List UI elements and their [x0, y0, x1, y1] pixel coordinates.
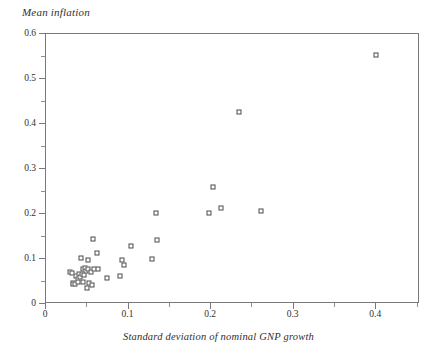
x-tick-label: 0.2 [190, 309, 230, 319]
data-point [206, 210, 211, 215]
x-tick-label: 0.4 [355, 309, 395, 319]
data-point [96, 267, 101, 272]
data-point [121, 263, 126, 268]
scatter-plot-area [45, 33, 419, 303]
data-point [374, 52, 379, 57]
data-point [81, 279, 86, 284]
data-point [219, 205, 224, 210]
data-point [90, 283, 95, 288]
data-point [78, 255, 83, 260]
x-tick-label: 0.1 [108, 309, 148, 319]
data-point [259, 209, 264, 214]
data-point [237, 110, 242, 115]
data-point [153, 211, 158, 216]
chart-page: Mean inflation 00.10.20.30.40.50.6 00.10… [0, 0, 437, 353]
data-point [129, 244, 134, 249]
x-axis-title: Standard deviation of nominal GNP growth [0, 331, 437, 342]
x-tick-label: 0.3 [273, 309, 313, 319]
x-tick-label: 0 [25, 309, 65, 319]
data-point [150, 257, 155, 262]
data-point [154, 238, 159, 243]
data-point [91, 237, 96, 242]
data-point [211, 185, 216, 190]
data-point [104, 276, 109, 281]
data-point [86, 258, 91, 263]
data-point [94, 250, 99, 255]
data-point [117, 274, 122, 279]
data-point [84, 286, 89, 291]
